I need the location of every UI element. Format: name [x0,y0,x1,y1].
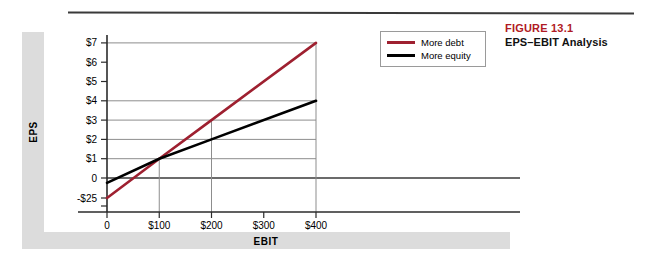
y-tick-label-2: $2 [86,134,98,145]
y-tick-label-0: 0 [91,173,97,184]
figure-number: FIGURE 13.1 [505,22,640,34]
x-tick-label-100: $100 [148,220,171,231]
x-tick-label-200: $200 [200,220,223,231]
x-tick-label-300: $300 [253,220,276,231]
legend-item-more-equity: More equity [387,49,479,62]
legend-item-more-debt: More debt [387,36,479,49]
y-tick-label-4: $4 [86,95,98,106]
y-tick-label-1: $1 [86,153,98,164]
legend-swatch-more-equity [387,54,415,57]
y-tick-label-7: $7 [86,37,98,48]
y-tick-label-5: $5 [86,76,98,87]
x-tick-label-0: 0 [104,220,110,231]
figure-caption: FIGURE 13.1 EPS–EBIT Analysis [505,22,640,48]
x-tick-label-400: $400 [305,220,328,231]
chart-legend: More debt More equity [380,31,486,67]
legend-swatch-more-debt [387,41,415,44]
y-tick-label-3: $3 [86,115,98,126]
y-tick-label-6: $6 [86,57,98,68]
legend-label-more-equity: More equity [421,49,471,62]
y-tick-label--25: -$25 [77,193,97,204]
figure-title: EPS–EBIT Analysis [505,36,640,48]
legend-label-more-debt: More debt [421,36,464,49]
